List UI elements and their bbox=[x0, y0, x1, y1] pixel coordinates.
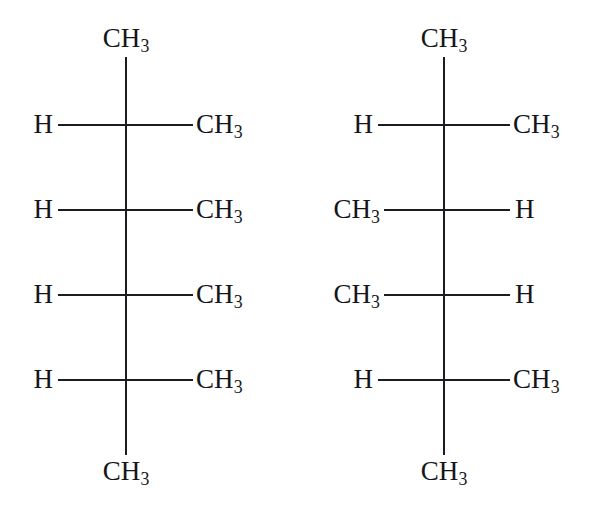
bond-left-row2 bbox=[58, 209, 126, 211]
substituent-right-row1-text: CH bbox=[513, 109, 551, 139]
substituent-left-row1-text: H bbox=[353, 109, 373, 139]
substituent-right-row4-text: CH bbox=[513, 364, 551, 394]
bond-left-row1 bbox=[58, 124, 126, 126]
substituent-left-row2: H bbox=[8, 196, 53, 223]
substituent-left-row2-subscript: 3 bbox=[371, 207, 380, 227]
substituent-right-row4-text: CH bbox=[196, 364, 234, 394]
bond-left-row4 bbox=[58, 379, 126, 381]
bond-left-row3 bbox=[384, 294, 444, 296]
substituent-left-row2-text: CH bbox=[333, 194, 371, 224]
substituent-right-row4: CH3 bbox=[513, 366, 560, 397]
bond-right-row3 bbox=[126, 294, 193, 296]
bottom-methyl-text: CH bbox=[103, 456, 141, 486]
top-methyl-subscript: 3 bbox=[458, 36, 467, 56]
substituent-left-row1-text: H bbox=[33, 109, 53, 139]
substituent-left-row1: H bbox=[8, 111, 53, 138]
substituent-right-row3: CH3 bbox=[196, 281, 243, 312]
substituent-right-row4-subscript: 3 bbox=[234, 377, 243, 397]
substituent-right-row3-text: CH bbox=[196, 279, 234, 309]
bond-right-row4 bbox=[444, 379, 510, 381]
substituent-right-row3: H bbox=[515, 281, 535, 308]
substituent-left-row4: H bbox=[8, 366, 53, 393]
bond-right-row1 bbox=[444, 124, 510, 126]
substituent-left-row4-text: H bbox=[33, 364, 53, 394]
bottom-methyl-subscript: 3 bbox=[458, 469, 467, 489]
substituent-right-row2-text: H bbox=[515, 194, 535, 224]
bottom-methyl-subscript: 3 bbox=[140, 469, 149, 489]
substituent-right-row1-subscript: 3 bbox=[551, 122, 560, 142]
top-methyl-subscript: 3 bbox=[140, 36, 149, 56]
backbone-vertical-bond bbox=[443, 57, 445, 455]
fischer-projection-left: CH3 H CH3 H CH3 H CH3 bbox=[0, 0, 298, 516]
substituent-left-row1: H bbox=[328, 111, 373, 138]
substituent-left-row2-text: H bbox=[33, 194, 53, 224]
substituent-left-row2: CH3 bbox=[300, 196, 380, 227]
fischer-projection-right: CH3 H CH3 CH3 H CH3 H bbox=[318, 0, 595, 516]
substituent-right-row1: CH3 bbox=[196, 111, 243, 142]
bond-right-row1 bbox=[126, 124, 193, 126]
bond-left-row1 bbox=[378, 124, 444, 126]
substituent-right-row4-subscript: 3 bbox=[551, 377, 560, 397]
substituent-left-row4: H bbox=[328, 366, 373, 393]
substituent-right-row2-subscript: 3 bbox=[234, 207, 243, 227]
substituent-left-row3-text: H bbox=[33, 279, 53, 309]
top-methyl-text: CH bbox=[103, 23, 141, 53]
bond-left-row3 bbox=[58, 294, 126, 296]
substituent-left-row3-subscript: 3 bbox=[371, 292, 380, 312]
substituent-right-row2: CH3 bbox=[196, 196, 243, 227]
fischer-projection-diagram: CH3 H CH3 H CH3 H CH3 bbox=[0, 0, 595, 516]
substituent-right-row3-text: H bbox=[515, 279, 535, 309]
bond-left-row4 bbox=[378, 379, 444, 381]
substituent-right-row3-subscript: 3 bbox=[234, 292, 243, 312]
bottom-methyl-label: CH3 bbox=[86, 458, 166, 489]
backbone-vertical-bond bbox=[125, 57, 127, 455]
substituent-left-row3: H bbox=[8, 281, 53, 308]
substituent-left-row3-text: CH bbox=[333, 279, 371, 309]
substituent-right-row1-text: CH bbox=[196, 109, 234, 139]
bond-left-row2 bbox=[384, 209, 444, 211]
substituent-right-row2: H bbox=[515, 196, 535, 223]
substituent-right-row1-subscript: 3 bbox=[234, 122, 243, 142]
substituent-left-row3: CH3 bbox=[300, 281, 380, 312]
substituent-right-row2-text: CH bbox=[196, 194, 234, 224]
substituent-right-row4: CH3 bbox=[196, 366, 243, 397]
substituent-right-row1: CH3 bbox=[513, 111, 560, 142]
top-methyl-text: CH bbox=[421, 23, 459, 53]
top-methyl-label: CH3 bbox=[86, 25, 166, 56]
bottom-methyl-text: CH bbox=[421, 456, 459, 486]
bond-right-row2 bbox=[444, 209, 510, 211]
bond-right-row2 bbox=[126, 209, 193, 211]
substituent-left-row4-text: H bbox=[353, 364, 373, 394]
top-methyl-label: CH3 bbox=[404, 25, 484, 56]
bond-right-row3 bbox=[444, 294, 510, 296]
bottom-methyl-label: CH3 bbox=[404, 458, 484, 489]
bond-right-row4 bbox=[126, 379, 193, 381]
